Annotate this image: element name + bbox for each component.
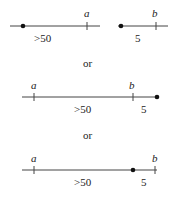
label-short-distance: 5 [135, 32, 141, 44]
case-2: a b >50 5 [22, 79, 159, 115]
label-b: b [152, 152, 158, 164]
or-separator: or [83, 129, 93, 141]
label-a: a [31, 79, 37, 91]
label-short-distance: 5 [141, 103, 147, 115]
point-dot [119, 24, 124, 29]
label-long-distance: >50 [74, 103, 92, 115]
label-a: a [84, 7, 90, 19]
point-dot [21, 24, 26, 29]
case-3: a b >50 5 [22, 152, 158, 188]
label-long-distance: >50 [34, 32, 52, 44]
label-long-distance: >50 [74, 176, 92, 188]
label-b: b [152, 7, 158, 19]
point-dot [155, 95, 160, 100]
case-1: a >50 b 5 [10, 7, 168, 44]
label-a: a [31, 152, 37, 164]
label-b: b [129, 79, 135, 91]
number-line-diagram: a >50 b 5 or a b >50 5 or a b >50 5 [0, 0, 176, 198]
or-separator: or [83, 57, 93, 69]
label-short-distance: 5 [141, 176, 147, 188]
point-dot [131, 168, 136, 173]
